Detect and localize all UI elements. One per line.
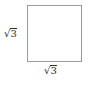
side-label-bottom: √3 (44, 65, 57, 76)
radicand-value: 3 (50, 65, 57, 76)
geometry-figure: √3 √3 (0, 0, 89, 85)
square-shape (27, 5, 82, 62)
radical-expression-left: √3 (4, 28, 17, 39)
side-label-left: √3 (4, 28, 17, 39)
radical-expression-bottom: √3 (44, 65, 57, 76)
radicand-value: 3 (10, 28, 17, 39)
